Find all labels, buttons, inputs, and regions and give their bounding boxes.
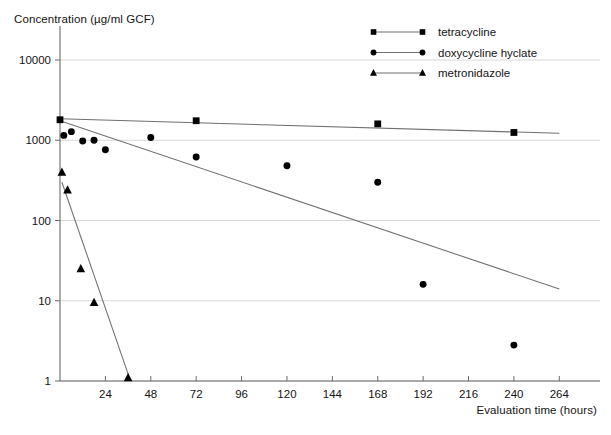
x-tick-label: 96 [235,388,248,400]
x-tick-label: 144 [323,388,343,400]
data-point-doxycycline [68,128,75,135]
legend-marker-circle [371,50,377,56]
data-point-tetracycline [193,117,200,124]
x-tick-labels: 24487296120144168192216240264 [99,376,570,400]
legend-marker-square [420,29,426,35]
x-tick-label: 216 [459,388,478,400]
data-point-metronidazole [124,373,133,381]
legend-label[interactable]: doxycycline hyclate [438,47,537,59]
y-tick-label: 1000 [25,134,51,146]
y-tick-label: 10000 [19,54,51,66]
data-point-doxycycline [79,137,86,144]
data-point-doxycycline [193,153,200,160]
y-tick-label: 10 [38,295,51,307]
data-point-doxycycline [60,132,67,139]
data-point-tetracycline [374,120,381,127]
gridlines [60,60,600,381]
trend-line-doxycycline [60,121,559,289]
data-point-doxycycline [147,134,154,141]
trend-line-tetracycline [60,119,559,134]
data-point-tetracycline [511,129,518,136]
legend-marker-circle [420,50,426,56]
y-tick-label: 1 [45,375,51,387]
plot-area: 110100100010000 244872961201441681922162… [0,0,611,435]
chart-root: Concentration (µg/ml GCF) Evaluation tim… [0,0,611,435]
data-point-metronidazole [90,298,99,306]
x-tick-label: 192 [414,388,433,400]
y-tick-label: 100 [32,215,51,227]
x-tick-label: 168 [368,388,387,400]
axes [60,26,600,381]
legend-marker-triangle [419,69,426,76]
data-point-tetracycline [57,116,64,123]
data-point-metronidazole [76,264,85,272]
legend-label[interactable]: tetracycline [438,26,496,38]
x-tick-label: 72 [190,388,203,400]
data-point-doxycycline [374,179,381,186]
regression-lines [60,119,559,379]
legend-marker-square [371,29,377,35]
data-point-doxycycline [91,137,98,144]
legend-label[interactable]: metronidazole [438,67,510,79]
data-point-doxycycline [283,162,290,169]
x-tick-label: 120 [277,388,296,400]
data-points [57,116,518,381]
x-tick-label: 24 [99,388,112,400]
x-tick-label: 48 [144,388,157,400]
x-tick-label: 264 [550,388,570,400]
data-point-metronidazole [58,167,67,175]
data-point-doxycycline [510,342,517,349]
data-point-doxycycline [102,146,109,153]
trend-line-metronidazole [62,182,130,379]
legend-marker-triangle [370,69,377,76]
y-tick-labels: 110100100010000 [19,54,60,387]
data-point-doxycycline [420,281,427,288]
legend[interactable]: tetracyclinedoxycycline hyclatemetronida… [370,26,537,79]
x-tick-label: 240 [504,388,523,400]
